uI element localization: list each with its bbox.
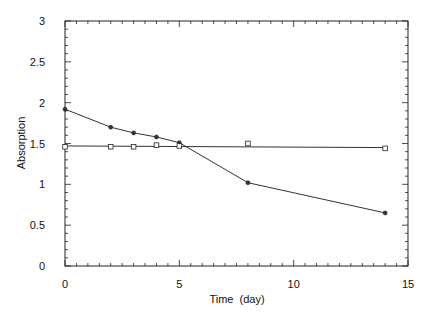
data-point: [177, 144, 182, 149]
data-point: [63, 107, 67, 111]
data-point: [131, 144, 136, 149]
y-tick-label: 1: [39, 178, 45, 190]
chart: 05101500.511.522.53 Time (day) Absorptio…: [0, 0, 428, 319]
tick-labels: 05101500.511.522.53: [30, 15, 414, 290]
y-tick-label: 2.5: [30, 56, 45, 68]
data-point: [108, 144, 113, 149]
y-tick-label: 2: [39, 97, 45, 109]
y-tick-label: 0.5: [30, 219, 45, 231]
x-tick-label: 0: [62, 278, 68, 290]
plot-frame: [65, 21, 408, 266]
data-point: [109, 125, 113, 129]
y-tick-label: 3: [39, 15, 45, 27]
axis-ticks: [65, 21, 408, 266]
data-point: [154, 143, 159, 148]
y-tick-label: 0: [39, 260, 45, 272]
x-axis-label: Time (day): [209, 293, 264, 305]
series-square-open: [63, 141, 388, 151]
data-point: [383, 211, 387, 215]
data-point: [63, 144, 68, 149]
data-point: [132, 131, 136, 135]
y-tick-label: 1.5: [30, 138, 45, 150]
series-circle-filled: [63, 107, 387, 215]
data-point: [383, 146, 388, 151]
y-axis-label: Absorption: [15, 117, 27, 170]
data-point: [246, 141, 251, 146]
data-series: [63, 107, 388, 215]
x-tick-label: 5: [176, 278, 182, 290]
x-tick-label: 10: [288, 278, 300, 290]
x-tick-label: 15: [402, 278, 414, 290]
data-point: [246, 181, 250, 185]
data-point: [154, 135, 158, 139]
